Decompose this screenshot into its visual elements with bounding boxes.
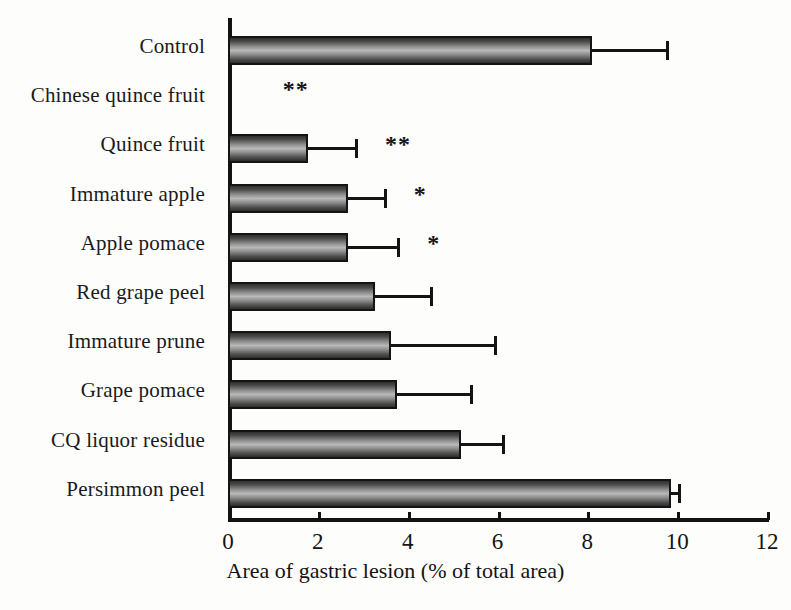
error-bar-line	[306, 147, 355, 150]
error-bar-cap	[494, 336, 497, 355]
x-axis-tick	[318, 512, 321, 520]
category-label: Chinese quince fruit	[31, 85, 205, 106]
category-label: Red grape peel	[76, 282, 205, 303]
bar	[228, 184, 348, 213]
error-bar-cap	[355, 139, 358, 158]
error-bar-line	[590, 49, 666, 52]
category-label: Apple pomace	[81, 233, 205, 254]
category-label: Immature apple	[70, 184, 205, 205]
bar-row	[228, 272, 769, 321]
bar	[228, 36, 592, 65]
error-bar-line	[346, 197, 384, 200]
x-axis-tick	[408, 512, 411, 520]
x-axis-tick-label: 12	[756, 530, 779, 553]
error-bar-cap	[397, 238, 400, 257]
error-bar-line	[669, 492, 678, 495]
bar	[228, 430, 461, 459]
bar-row: **	[228, 75, 769, 124]
x-axis-tick	[498, 512, 501, 520]
x-axis-tick-label: 0	[222, 530, 234, 553]
bar	[228, 282, 375, 311]
bar-row	[228, 420, 769, 469]
error-bar-cap	[502, 435, 505, 454]
bar-row: *	[228, 174, 769, 223]
category-label: Quince fruit	[101, 134, 205, 155]
significance-marker: **	[283, 77, 309, 101]
significance-marker: *	[427, 231, 440, 255]
bar	[228, 134, 308, 163]
bar-row	[228, 469, 769, 518]
bar-row: *	[228, 223, 769, 272]
gastric-lesion-bar-chart: ControlChinese quince fruitQuince fruitI…	[0, 0, 791, 610]
bar	[228, 380, 397, 409]
x-axis-title: Area of gastric lesion (% of total area)	[0, 560, 791, 582]
error-bar-line	[373, 295, 430, 298]
plot-area: ****** 024681012	[228, 18, 769, 518]
significance-marker: *	[414, 182, 427, 206]
x-axis-tick	[677, 512, 680, 520]
x-axis-tick-label: 6	[492, 530, 504, 553]
category-label: Control	[139, 36, 205, 57]
x-axis-tick-label: 4	[402, 530, 414, 553]
error-bar-line	[459, 443, 503, 446]
error-bar-line	[389, 344, 494, 347]
x-axis-tick	[767, 512, 770, 520]
bar-row: **	[228, 124, 769, 173]
x-axis-tick-label: 10	[666, 530, 689, 553]
x-axis-tick-label: 8	[582, 530, 594, 553]
bar-row	[228, 321, 769, 370]
bar-row	[228, 370, 769, 419]
category-label: Persimmon peel	[66, 479, 205, 500]
error-bar-cap	[430, 287, 433, 306]
error-bar-line	[346, 246, 397, 249]
bar	[228, 479, 671, 508]
error-bar-cap	[470, 385, 473, 404]
error-bar-cap	[678, 484, 681, 503]
bar	[228, 233, 348, 262]
x-axis-tick-label: 2	[312, 530, 324, 553]
bar	[228, 331, 391, 360]
category-label: CQ liquor residue	[51, 430, 205, 451]
significance-marker: **	[385, 132, 411, 156]
category-label: Immature prune	[68, 331, 206, 352]
x-axis-tick	[587, 512, 590, 520]
error-bar-cap	[666, 41, 669, 60]
category-label: Grape pomace	[81, 380, 205, 401]
error-bar-line	[395, 393, 470, 396]
error-bar-cap	[384, 189, 387, 208]
bar-row	[228, 26, 769, 75]
